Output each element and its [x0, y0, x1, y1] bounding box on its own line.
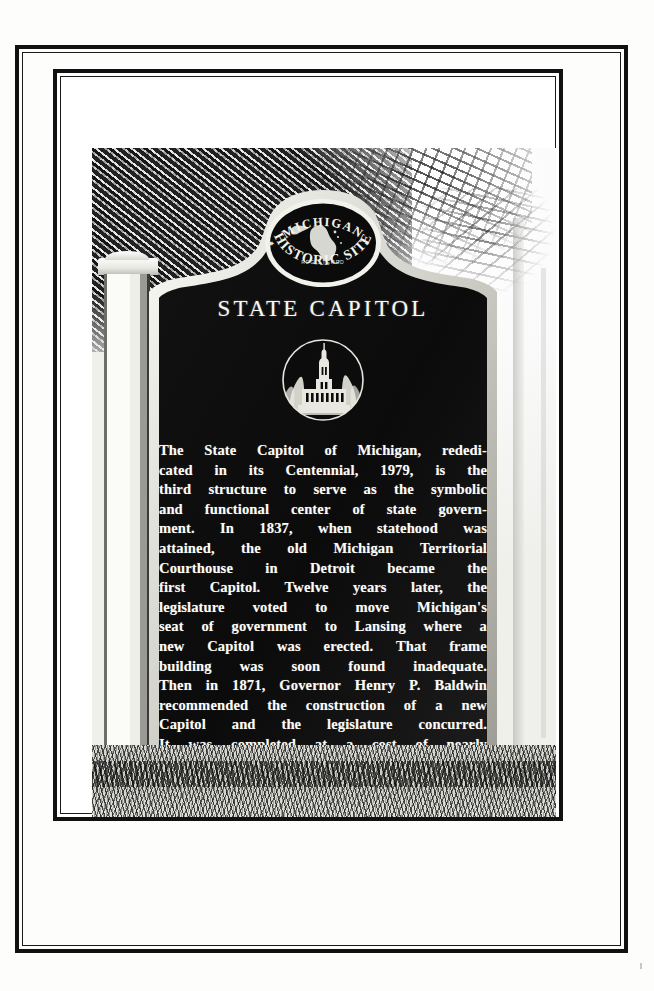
page-root: ✦ ✦ MICHIGAN HISTORIC SITE REGISTERED [0, 0, 654, 991]
marker-body-line: seatofgovernmenttoLansingwherea [159, 617, 487, 637]
background-building-edge [513, 218, 524, 758]
marker-body-line: recommendedtheconstructionofanew [159, 696, 487, 716]
marker-body-line: ment.In1837,whenstatehoodwas [159, 519, 487, 539]
marker-body-text: TheStateCapitolofMichigan,rededi- catedi… [159, 441, 487, 774]
marker-body-line: TheStateCapitolofMichigan,rededi- [159, 441, 487, 461]
marker-body-line: newCapitolwaserected.Thatframe [159, 637, 487, 657]
grass-foreground [92, 745, 556, 817]
marker-content: STATE CAPITOL [145, 174, 501, 764]
background-building-edge-secondary [541, 268, 546, 738]
marker-body-line: andfunctionalcenterofstategovern- [159, 500, 487, 520]
marker-body-line: Capitolandthelegislatureconcurred. [159, 715, 487, 735]
marker-body-line: buildingwassoonfoundinadequate. [159, 657, 487, 677]
marker-body-line: CourthouseinDetroitbecamethe [159, 559, 487, 579]
capitol-building-medallion [280, 337, 366, 423]
scan-speck [640, 963, 642, 969]
marker-body-line: attained,theoldMichiganTerritorial [159, 539, 487, 559]
marker-body-line: firstCapitol.Twelveyearslater,the [159, 578, 487, 598]
marker-body-line: thirdstructuretoserveasthesymbolic [159, 480, 487, 500]
marker-body-line: catedinitsCentennial,1979,isthe [159, 461, 487, 481]
marker-body-line: Thenin1871,GovernorHenryP.Baldwin [159, 676, 487, 696]
marker-title: STATE CAPITOL [145, 296, 501, 322]
stone-post-shaft [104, 274, 150, 817]
marker-photograph: ✦ ✦ MICHIGAN HISTORIC SITE REGISTERED [92, 148, 556, 817]
marker-body-line: legislaturevotedtomoveMichigan's [159, 598, 487, 618]
historic-marker-sign: ✦ ✦ MICHIGAN HISTORIC SITE REGISTERED [145, 174, 501, 764]
grass-shadow-band [92, 761, 556, 787]
